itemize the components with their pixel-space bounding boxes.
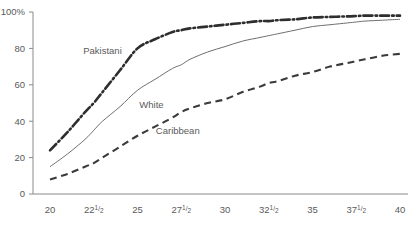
- y-tick-label: 0: [20, 188, 25, 199]
- y-tick-label: 60: [14, 79, 25, 90]
- series-line-caribbean: [50, 54, 400, 180]
- x-tick-label: 371/2: [346, 204, 366, 216]
- x-tick-label: 20: [45, 204, 56, 215]
- x-tick-label: 221/2: [84, 204, 104, 216]
- x-tick-label: 321/2: [259, 204, 279, 216]
- y-tick-label: 40: [14, 116, 25, 127]
- x-tick-label: 271/2: [171, 204, 191, 216]
- y-tick-label: 100%: [1, 6, 26, 17]
- chart-axes: [33, 12, 408, 194]
- x-tick-label: 40: [395, 204, 406, 215]
- x-tick-label: 30: [220, 204, 231, 215]
- series-label-caribbean: Caribbean: [156, 125, 200, 136]
- chart-container: 020406080100%20221/225271/230321/235371/…: [0, 0, 417, 227]
- y-tick-label: 20: [14, 152, 25, 163]
- series-line-pakistani: [50, 16, 400, 151]
- chart-plot-area: 020406080100%20221/225271/230321/235371/…: [0, 0, 417, 227]
- series-label-pakistani: Pakistani: [83, 45, 122, 56]
- y-tick-label: 80: [14, 43, 25, 54]
- x-tick-label: 35: [307, 204, 318, 215]
- series-label-white: White: [139, 99, 163, 110]
- x-tick-label: 25: [132, 204, 143, 215]
